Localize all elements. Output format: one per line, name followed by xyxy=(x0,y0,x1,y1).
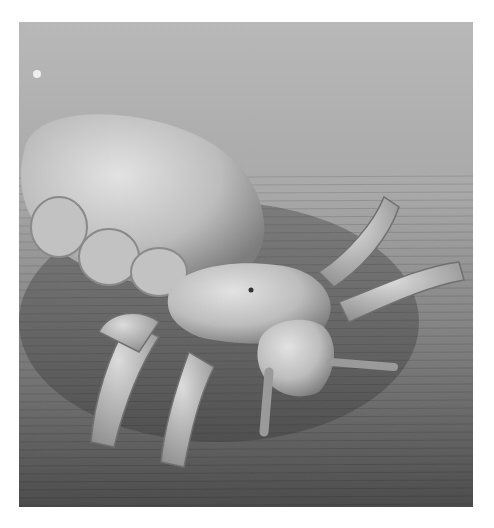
antenna-right xyxy=(331,362,394,367)
spiracle xyxy=(249,288,254,293)
louse-illustration xyxy=(19,22,473,507)
micrograph-photo xyxy=(19,22,473,507)
surface-speck xyxy=(33,70,41,78)
antenna-left xyxy=(264,372,269,432)
